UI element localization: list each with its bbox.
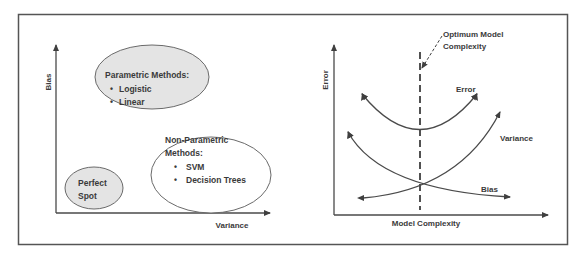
- non-parametric-title-line1: Non-Parametric: [165, 135, 229, 145]
- optimum-annotation-pointer: [422, 36, 442, 68]
- left-y-axis-label: Bias: [44, 73, 53, 90]
- error-curve-label: Error: [456, 85, 476, 94]
- left-panel-bias-vs-variance: Bias Variance Parametric Methods: • Logi…: [44, 45, 271, 230]
- perfect-spot-line2: Spot: [78, 191, 97, 201]
- bias-curve-label: Bias: [481, 185, 498, 194]
- right-panel-error-vs-complexity: Error Model Complexity Optimum Model Com…: [321, 30, 548, 228]
- parametric-item-logistic: Logistic: [119, 84, 152, 94]
- bullet: •: [110, 97, 113, 107]
- parametric-title: Parametric Methods:: [105, 70, 189, 80]
- non-parametric-methods-ellipse: Non-Parametric Methods: • SVM • Decision…: [151, 135, 271, 213]
- perfect-spot-line1: Perfect: [78, 178, 107, 188]
- variance-curve-label: Variance: [500, 134, 533, 143]
- perfect-spot-ellipse: Perfect Spot: [65, 167, 123, 209]
- right-y-axis-label: Error: [321, 70, 330, 90]
- left-x-axis-label: Variance: [216, 221, 249, 230]
- optimum-annotation-line1: Optimum Model: [443, 30, 503, 39]
- bullet: •: [110, 84, 113, 94]
- variance-curve: [363, 112, 500, 198]
- bias-variance-figure: Bias Variance Parametric Methods: • Logi…: [0, 0, 584, 257]
- non-parametric-item-decision-trees: Decision Trees: [186, 175, 246, 185]
- optimum-annotation-line2: Complexity: [443, 42, 487, 51]
- parametric-methods-ellipse: Parametric Methods: • Logistic • Linear: [95, 45, 209, 109]
- variance-left-arrowhead-icon: [357, 195, 364, 201]
- bullet: •: [174, 175, 177, 185]
- non-parametric-title-line2: Methods:: [165, 148, 203, 158]
- bullet: •: [174, 162, 177, 172]
- right-x-axis-label: Model Complexity: [392, 219, 461, 228]
- parametric-item-linear: Linear: [119, 97, 145, 107]
- non-parametric-item-svm: SVM: [186, 162, 204, 172]
- curve-arrowheads: [347, 93, 478, 201]
